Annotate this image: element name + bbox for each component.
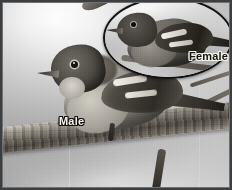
photo-scene xyxy=(3,3,229,187)
female-eye xyxy=(131,22,136,27)
male-leg xyxy=(108,123,115,141)
label-female: Female xyxy=(189,50,228,62)
twig-lower xyxy=(152,149,166,187)
male-throat xyxy=(59,77,85,99)
female-inset xyxy=(103,3,229,79)
bird-photo-figure: Male Female xyxy=(0,0,232,190)
label-male: Male xyxy=(59,115,84,127)
male-eye-glint xyxy=(73,62,75,64)
inset-oval-frame xyxy=(103,3,229,79)
